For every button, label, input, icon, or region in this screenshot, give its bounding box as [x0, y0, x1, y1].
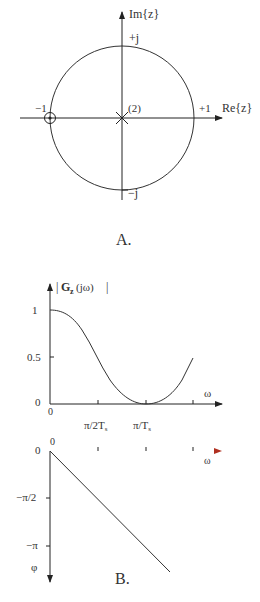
magnitude-xlabel: ω	[204, 387, 211, 399]
magnitude-ylabel: G	[61, 280, 70, 294]
phase-origin-y-label: 0	[35, 444, 41, 456]
magnitude-ylabel-bar-left: |	[56, 280, 58, 294]
y-tick-1: 1	[32, 304, 38, 316]
magnitude-ylabel-sub: z	[70, 287, 74, 296]
caption-b: B.	[115, 570, 130, 587]
plus-one-label: +1	[199, 102, 211, 114]
minus-j-label: −j	[128, 186, 138, 200]
phase-origin-x-label: 0	[50, 436, 55, 447]
re-axis-label: Re{z}	[222, 101, 252, 115]
phase-curve	[50, 451, 170, 572]
im-axis-label: Im{z}	[129, 7, 159, 21]
pole-multiplicity-label: (2)	[128, 102, 141, 115]
x-tick-pi-2ts: π/2Ts	[84, 419, 108, 433]
pole-zero-plot: Im{z} +j −1 (2) +1 Re{z} −j A.	[20, 7, 252, 248]
y-tick-0: 0	[35, 396, 41, 408]
magnitude-curve	[50, 310, 193, 404]
plus-j-label: +j	[129, 31, 139, 45]
minus-one-label: −1	[35, 102, 47, 114]
magnitude-ylabel-bar-right: |	[106, 280, 108, 294]
caption-a: A.	[116, 231, 132, 248]
y-tick-0-5: 0.5	[27, 351, 41, 363]
phase-plot: 0 0 ω −π/2 −π φ B.	[16, 436, 222, 587]
figure: Im{z} +j −1 (2) +1 Re{z} −j A. | G z (jω…	[0, 0, 260, 602]
x-tick-0: 0	[48, 406, 53, 417]
phase-tick-minus-pi: −π	[26, 539, 38, 551]
phase-xlabel: ω	[204, 455, 211, 466]
magnitude-ylabel-arg: (jω)	[76, 281, 94, 294]
phase-tick-minus-pi-2: −π/2	[16, 491, 36, 503]
phase-ylabel: φ	[31, 561, 37, 573]
x-tick-pi-ts: π/Ts	[133, 419, 151, 433]
magnitude-plot: | G z (jω) | 1 0.5 0 0 π/2Ts π/Ts ω	[27, 280, 222, 433]
